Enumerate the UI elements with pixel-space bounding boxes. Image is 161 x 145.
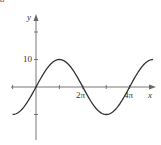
- x-tick-label-2pi: 2π: [76, 90, 86, 100]
- y-tick-label-10: 10: [23, 54, 33, 64]
- x-axis-label: x: [147, 90, 152, 100]
- x-axis-arrow-icon: [149, 85, 156, 90]
- axes: [11, 14, 156, 140]
- y-axis-label: y: [26, 12, 31, 22]
- sine-chart: y x 10 2π 4π: [0, 0, 161, 145]
- x-tick-label-4pi: 4π: [124, 90, 134, 100]
- y-axis-arrow-icon: [34, 14, 39, 21]
